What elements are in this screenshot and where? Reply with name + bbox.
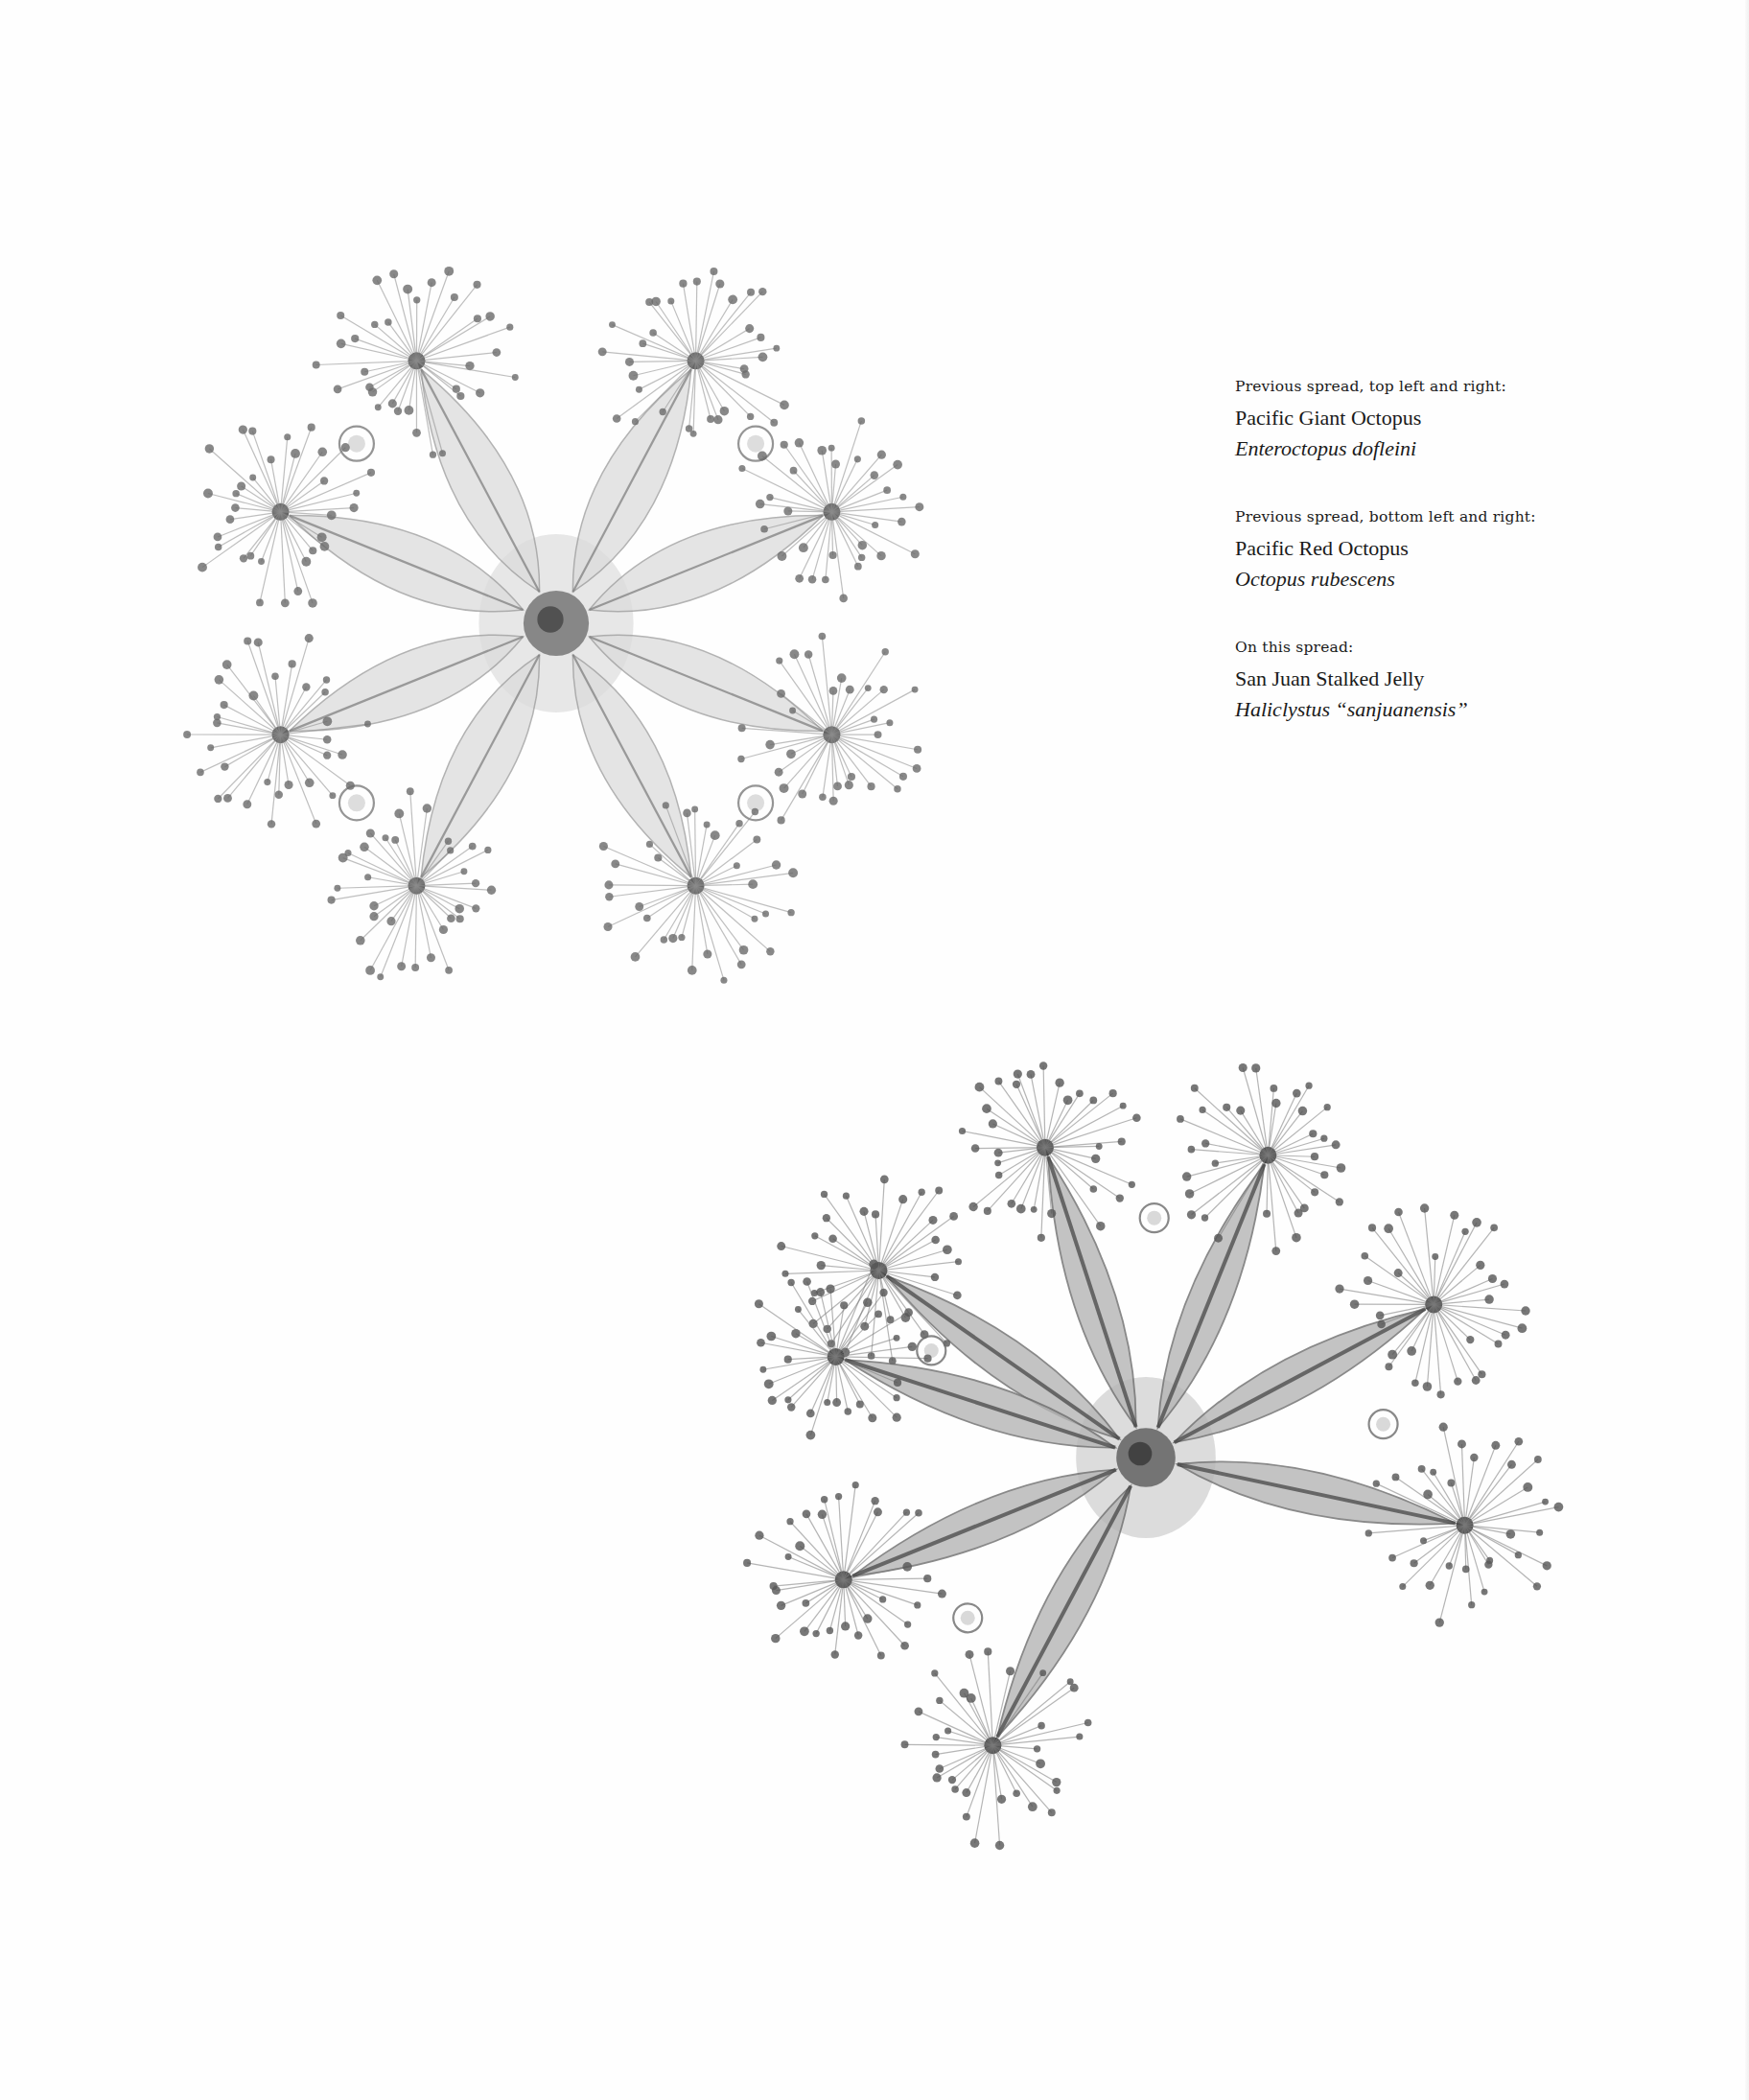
caption-common-name: San Juan Stalked Jelly	[1235, 664, 1638, 694]
caption-scientific-name: Haliclystus “sanjuanensis”	[1235, 694, 1638, 725]
caption-common-name: Pacific Giant Octopus	[1235, 403, 1638, 433]
caption-block: Previous spread, top left and right: Pac…	[1235, 376, 1638, 767]
caption-label: Previous spread, bottom left and right:	[1235, 506, 1638, 527]
page-edge-shadow	[1745, 0, 1749, 2100]
caption-previous-top: Previous spread, top left and right: Pac…	[1235, 376, 1638, 464]
stalked-jelly-image-bottom	[652, 1036, 1649, 1947]
caption-this-spread: On this spread: San Juan Stalked Jelly H…	[1235, 637, 1638, 725]
book-page: Previous spread, top left and right: Pac…	[0, 0, 1749, 2100]
caption-label: On this spread:	[1235, 637, 1638, 658]
stalked-jelly-image-top	[38, 134, 1036, 1112]
caption-scientific-name: Enteroctopus dofleini	[1235, 433, 1638, 464]
caption-scientific-name: Octopus rubescens	[1235, 564, 1638, 595]
caption-label: Previous spread, top left and right:	[1235, 376, 1638, 397]
caption-previous-bottom: Previous spread, bottom left and right: …	[1235, 506, 1638, 595]
caption-common-name: Pacific Red Octopus	[1235, 533, 1638, 564]
